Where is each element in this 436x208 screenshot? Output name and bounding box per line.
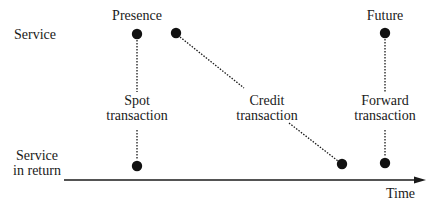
spot-transaction-line2: transaction bbox=[100, 108, 174, 123]
row-label-service: Service bbox=[14, 27, 56, 42]
time-axis-label: Time bbox=[386, 186, 415, 201]
forward-service-dot bbox=[380, 28, 390, 38]
column-label-future: Future bbox=[358, 8, 412, 23]
credit-transaction-line2: transaction bbox=[229, 108, 305, 123]
time-axis-arrowhead bbox=[414, 177, 426, 184]
credit-service-dot bbox=[171, 28, 181, 38]
spot-transaction-label: Spot transaction bbox=[100, 93, 174, 123]
credit-transaction-line1: Credit bbox=[229, 93, 305, 108]
forward-transaction-label: Forward transaction bbox=[347, 93, 423, 123]
forward-transaction-line2: transaction bbox=[347, 108, 423, 123]
forward-return-dot bbox=[380, 158, 390, 168]
spot-return-dot bbox=[132, 161, 142, 171]
spot-transaction-line1: Spot bbox=[100, 93, 174, 108]
row-label-service-in-return-line2: in return bbox=[12, 163, 62, 178]
spot-service-dot bbox=[132, 29, 142, 39]
credit-transaction-label: Credit transaction bbox=[229, 93, 305, 123]
credit-connector-upper bbox=[180, 37, 244, 88]
credit-return-dot bbox=[337, 159, 347, 169]
forward-transaction-line1: Forward bbox=[347, 93, 423, 108]
credit-connector-lower bbox=[289, 123, 338, 161]
row-label-service-in-return-line1: Service bbox=[12, 148, 62, 163]
row-label-service-in-return: Service in return bbox=[12, 148, 62, 178]
column-label-presence: Presence bbox=[104, 8, 170, 23]
